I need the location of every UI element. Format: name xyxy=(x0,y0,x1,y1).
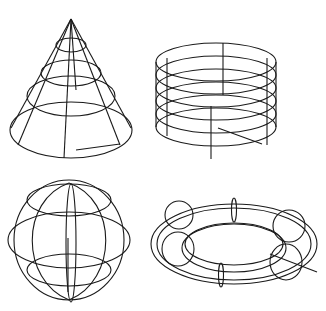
wireframe-canvas xyxy=(0,0,326,311)
torus-wireframe xyxy=(151,198,317,287)
cylinder-wireframe xyxy=(156,43,276,159)
wireframe-figure xyxy=(0,0,326,311)
cone-wireframe xyxy=(10,19,132,158)
sphere-wireframe xyxy=(8,180,130,302)
